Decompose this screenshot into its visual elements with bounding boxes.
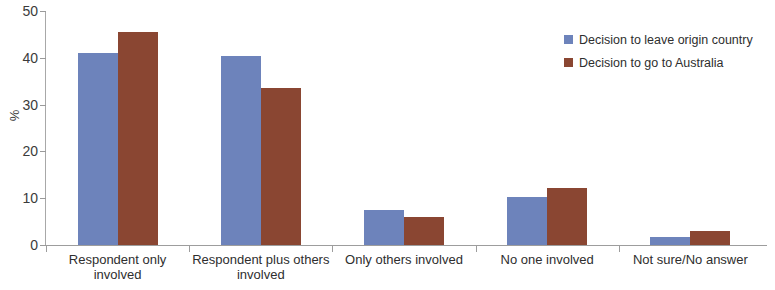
y-axis-tick-label: 0 (12, 238, 38, 252)
x-axis-tick-mark (189, 246, 190, 252)
bar (650, 237, 690, 245)
bar (261, 88, 301, 245)
legend-item[interactable]: Decision to leave origin country (564, 30, 753, 49)
bar (364, 210, 404, 245)
bar (118, 32, 158, 245)
y-axis-tick-label: 30 (12, 98, 38, 112)
x-axis-tick-mark (476, 246, 477, 252)
legend-swatch-icon (564, 58, 573, 67)
x-axis-tick-mark (619, 246, 620, 252)
x-axis-tick-mark (332, 246, 333, 252)
y-axis-tick-labels: 01020304050 (12, 0, 38, 290)
x-axis-category-label: Not sure/No answer (619, 252, 762, 267)
legend-swatch-icon (564, 35, 573, 44)
y-axis-tick-mark (40, 198, 46, 199)
y-axis-tick-label: 40 (12, 51, 38, 65)
y-axis-tick-mark (40, 11, 46, 12)
y-axis-tick-label: 20 (12, 144, 38, 158)
legend-item-label: Decision to go to Australia (579, 56, 724, 70)
chart-legend: Decision to leave origin country Decisio… (564, 30, 753, 76)
y-axis-tick-label: 10 (12, 191, 38, 205)
x-axis-category-label: Only others involved (332, 252, 475, 267)
x-axis-category-label: No one involved (476, 252, 619, 267)
x-axis-category-label: Respondent only involved (46, 252, 189, 282)
bar (547, 188, 587, 245)
bar-chart: % 01020304050 Respondent only involvedRe… (0, 0, 775, 290)
x-axis-category-label: Respondent plus others involved (189, 252, 332, 282)
y-axis-tick-mark (40, 105, 46, 106)
bar (221, 56, 261, 245)
x-axis-tick-mark (46, 246, 47, 252)
bar (78, 53, 118, 245)
y-axis-tick-label: 50 (12, 4, 38, 18)
bar (507, 197, 547, 245)
bar (404, 217, 444, 245)
legend-item[interactable]: Decision to go to Australia (564, 53, 753, 72)
x-axis-line (45, 245, 767, 246)
y-axis-tick-mark (40, 151, 46, 152)
y-axis-tick-mark (40, 58, 46, 59)
bar (690, 231, 730, 245)
legend-item-label: Decision to leave origin country (579, 33, 753, 47)
